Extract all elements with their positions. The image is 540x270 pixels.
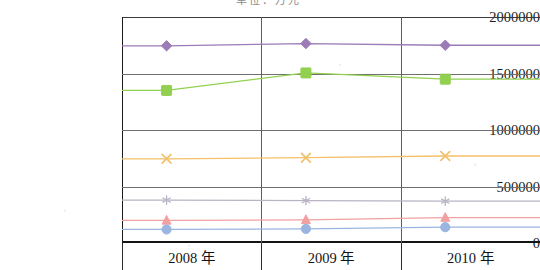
series-4-asterisk-gray-line [122, 200, 540, 201]
series-5-triangle-pink [122, 213, 540, 225]
series-2-square-green-line [122, 73, 540, 91]
series-1-diamond-purple-line [122, 44, 540, 46]
chart-title-strip: 单位：万元 [236, 0, 386, 6]
line-chart: 单位：万元 0500000100000015000002000000 2008 … [0, 0, 540, 270]
x-axis-label-0: 2008 年 [122, 243, 261, 270]
category-band-divider-2 [401, 243, 402, 270]
series-3-cross-orange-line [122, 156, 540, 159]
x-axis-label-1: 2009 年 [261, 243, 400, 270]
series-5-triangle-pink-line [122, 218, 540, 221]
series-1-diamond-purple [122, 38, 540, 51]
x-axis-category-band: 2008 年2009 年2010 年 [122, 243, 540, 270]
series-2-square-green [122, 68, 540, 96]
series-6-circle-blue [122, 223, 540, 234]
category-band-divider-1 [261, 243, 262, 270]
plot-area [122, 17, 540, 243]
x-axis-label-2: 2010 年 [401, 243, 540, 270]
series-6-circle-blue-line [122, 227, 540, 229]
series-3-cross-orange [122, 152, 540, 164]
data-series-layer [122, 17, 540, 243]
series-4-asterisk-gray [122, 196, 540, 206]
chart-title-text: 单位：万元 [236, 0, 301, 6]
